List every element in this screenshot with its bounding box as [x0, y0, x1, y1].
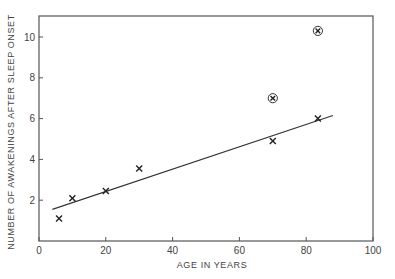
- x-tick-label: 80: [301, 245, 313, 256]
- scatter-chart: 020406080100 246810 AGE IN YEARS NUMBER …: [0, 0, 395, 279]
- x-marker: [69, 195, 75, 201]
- plot-border: [39, 16, 373, 241]
- x-axis-ticks: 020406080100: [36, 237, 382, 256]
- regression-line: [52, 116, 333, 210]
- x-axis-label: AGE IN YEARS: [177, 260, 248, 270]
- x-tick-label: 40: [167, 245, 179, 256]
- y-tick-label: 4: [29, 154, 35, 165]
- y-axis-label: NUMBER OF AWAKENINGS AFTER SLEEP ONSET: [6, 14, 16, 250]
- circled-x-marker: [268, 94, 277, 103]
- x-tick-label: 20: [100, 245, 112, 256]
- x-marker: [136, 166, 142, 172]
- y-tick-label: 10: [24, 32, 36, 43]
- plot-frame: [39, 16, 373, 241]
- y-tick-label: 6: [29, 113, 35, 124]
- x-tick-label: 100: [365, 245, 382, 256]
- y-tick-label: 8: [29, 72, 35, 83]
- x-tick-label: 60: [234, 245, 246, 256]
- circled-x-marker: [313, 26, 322, 35]
- data-points: [56, 26, 322, 221]
- fit-line: [52, 116, 333, 210]
- x-marker: [56, 216, 62, 222]
- x-tick-label: 0: [36, 245, 42, 256]
- y-tick-label: 2: [29, 195, 35, 206]
- x-marker: [270, 138, 276, 144]
- y-axis-ticks: 246810: [24, 32, 43, 206]
